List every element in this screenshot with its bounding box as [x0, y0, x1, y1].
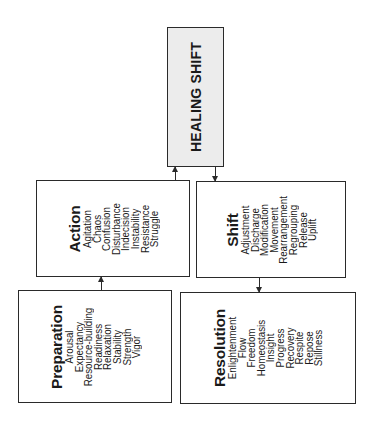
preparation-item: Vigor	[132, 307, 142, 386]
shift-box: Shift Adjustment Discharge Modification …	[196, 181, 346, 278]
preparation-box: Preparation Arousal Expectancy Resource-…	[18, 290, 172, 403]
resolution-item: Stillness	[314, 312, 324, 384]
resolution-text: Resolution Enlightenment Flow Freedom Ho…	[212, 309, 324, 387]
arrow-shift-to-resolution	[259, 278, 260, 292]
action-item: Struggle	[150, 202, 160, 254]
action-text: Action Agitation Chaos Confusion Disturb…	[67, 200, 160, 257]
resolution-box: Resolution Enlightenment Flow Freedom Ho…	[180, 292, 356, 404]
arrowhead-up-icon	[98, 276, 104, 282]
healing-shift-title: HEALING SHIFT	[188, 42, 204, 152]
arrow-healing-shift-to-shift	[215, 167, 216, 181]
action-box: Action Agitation Chaos Confusion Disturb…	[36, 180, 190, 277]
arrowhead-up-icon	[172, 166, 178, 172]
preparation-text: Preparation Arousal Expectancy Resource-…	[49, 304, 142, 389]
healing-shift-box: HEALING SHIFT	[167, 27, 224, 167]
healing-shift-label-wrap: HEALING SHIFT	[188, 42, 204, 152]
shift-text: Shift Adjustment Discharge Modification …	[225, 193, 318, 267]
arrow-preparation-to-action	[101, 277, 102, 290]
arrowhead-down-icon	[256, 287, 262, 293]
arrowhead-down-icon	[212, 176, 218, 182]
shift-item: Uplift	[308, 196, 318, 264]
arrow-action-to-healing-shift	[175, 167, 176, 180]
